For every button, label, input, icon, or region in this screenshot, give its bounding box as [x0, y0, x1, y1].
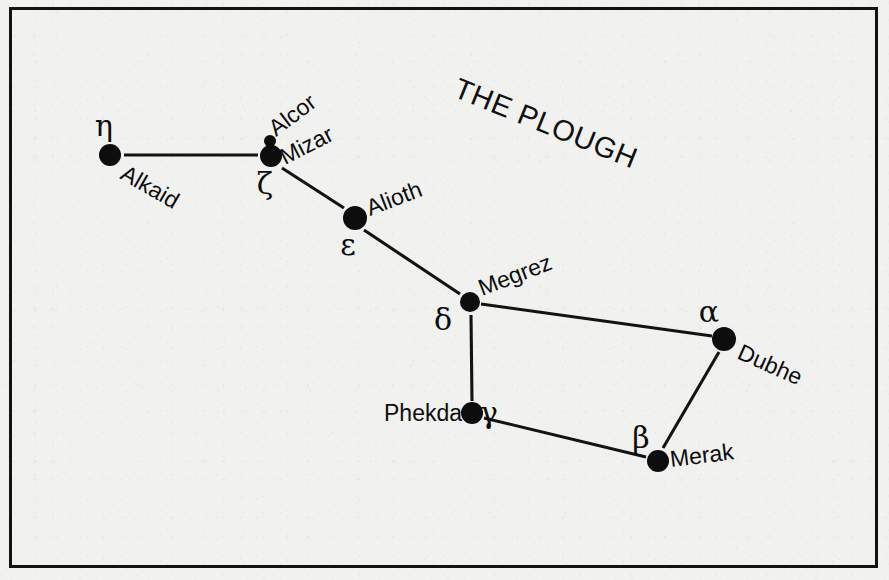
line-megrez-dubhe: [481, 304, 712, 336]
star-name-megrez: Megrez: [474, 249, 555, 301]
star-dot-alkaid[interactable]: [99, 144, 121, 166]
star-name-dubhe: Dubhe: [734, 339, 806, 390]
star-dot-merak[interactable]: [647, 450, 669, 472]
star-dot-megrez[interactable]: [460, 292, 480, 312]
line-merak-dubhe: [663, 352, 719, 448]
greek-label-phekda: γ: [480, 395, 498, 430]
star-name-labels: Alkaid Alcor Mizar Alioth Megrez Dubhe M…: [117, 88, 807, 471]
greek-label-alkaid: η: [95, 108, 113, 143]
line-megrez-phekda: [471, 315, 472, 401]
greek-label-mizar: ζ: [257, 166, 273, 201]
diagram-title: THE PLOUGH: [450, 72, 642, 175]
star-name-alioth: Alioth: [362, 176, 425, 221]
greek-label-dubhe: α: [699, 294, 719, 329]
greek-label-alioth: ε: [340, 227, 356, 262]
star-name-phekda: Phekda: [384, 400, 462, 426]
line-alioth-megrez: [364, 230, 460, 294]
greek-label-megrez: δ: [434, 302, 452, 337]
star-chart-page: η ζ ε δ α β γ Alkaid Alcor Mizar Alioth …: [0, 0, 889, 580]
greek-label-merak: β: [632, 420, 649, 455]
star-name-merak: Merak: [668, 438, 735, 472]
star-name-alkaid: Alkaid: [117, 160, 184, 214]
line-mizar-alioth: [282, 168, 344, 208]
constellation-map: η ζ ε δ α β γ Alkaid Alcor Mizar Alioth …: [0, 0, 889, 580]
star-dot-dubhe[interactable]: [712, 327, 736, 351]
line-phekda-merak: [484, 418, 646, 457]
